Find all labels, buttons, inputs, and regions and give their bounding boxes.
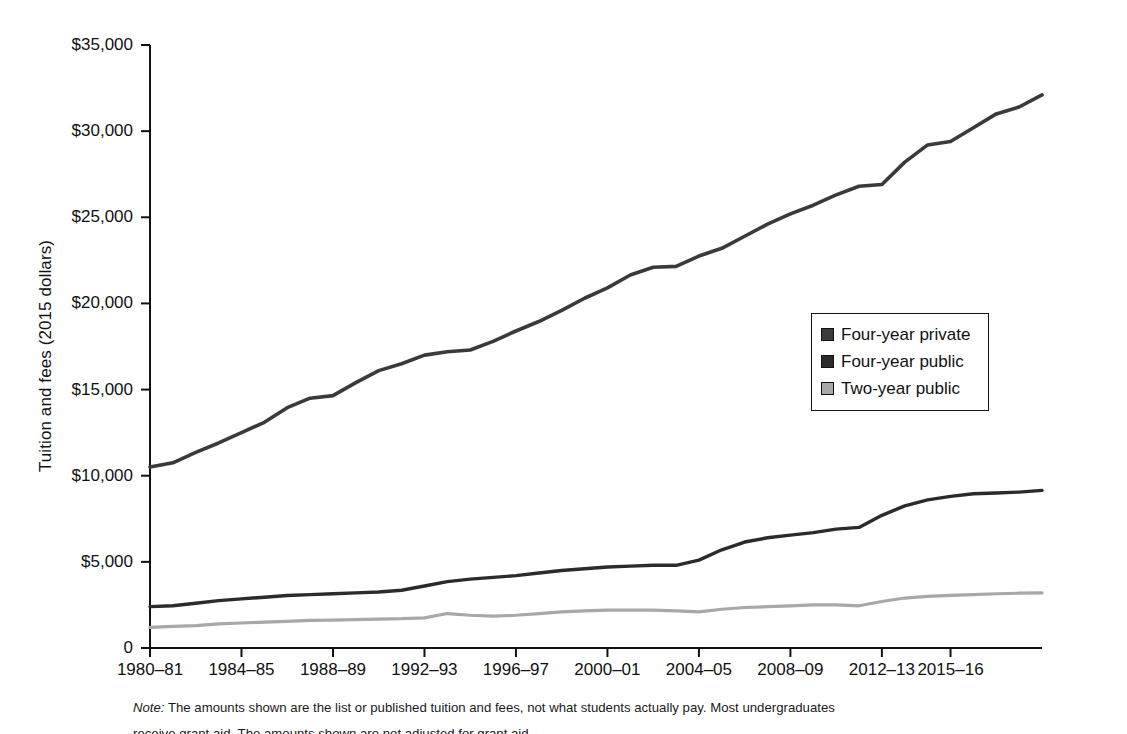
note-text: The amounts shown are the list or publis… xyxy=(165,700,835,715)
chart-legend: Four-year private Four-year public Two-y… xyxy=(811,313,989,411)
series-line xyxy=(150,95,1042,467)
legend-swatch-icon xyxy=(821,382,834,395)
series-line xyxy=(150,593,1042,627)
legend-label: Two-year public xyxy=(841,379,960,399)
legend-item-two-year-public[interactable]: Two-year public xyxy=(821,375,979,402)
legend-label: Four-year public xyxy=(841,352,964,372)
legend-swatch-icon xyxy=(821,355,834,368)
note-label: Note: xyxy=(133,700,165,715)
series-line xyxy=(150,490,1042,606)
figure-note: Note: The amounts shown are the list or … xyxy=(133,699,1073,716)
legend-swatch-icon xyxy=(821,328,834,341)
legend-item-four-year-private[interactable]: Four-year private xyxy=(821,321,979,348)
legend-label: Four-year private xyxy=(841,325,970,345)
legend-item-four-year-public[interactable]: Four-year public xyxy=(821,348,979,375)
figure-note-line2: receive grant aid. The amounts shown are… xyxy=(133,725,1073,734)
tuition-and-fees-line-chart: Tuition and fees (2015 dollars) 0$5,000$… xyxy=(0,0,1127,734)
